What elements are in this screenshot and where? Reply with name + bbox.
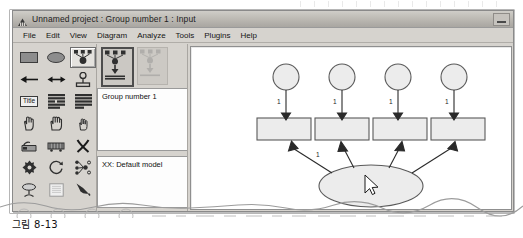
- loading-path-1: [291, 147, 332, 173]
- deselect-all-objects-icon[interactable]: [70, 113, 96, 134]
- duplicate-object-icon[interactable]: [16, 135, 42, 156]
- select-one-object-icon[interactable]: [16, 113, 42, 134]
- menu-bar: File Edit View Diagram Analyze Tools Plu…: [13, 28, 513, 43]
- menu-item-file[interactable]: File: [18, 31, 41, 40]
- menu-item-edit[interactable]: Edit: [41, 31, 65, 40]
- path-diagram-canvas[interactable]: 1 1 1 1 1: [190, 46, 512, 210]
- rotate-indicators-icon[interactable]: [43, 157, 69, 178]
- menu-item-tools[interactable]: Tools: [171, 31, 200, 40]
- amos-icon: [17, 14, 28, 25]
- model-thumbnail-strip: [97, 44, 187, 86]
- page-edge-decoration: [0, 196, 523, 218]
- menu-item-analyze[interactable]: Analyze: [132, 31, 170, 40]
- menu-item-help[interactable]: Help: [236, 31, 262, 40]
- figure-caption-icon[interactable]: Title: [16, 91, 42, 112]
- list-variables-in-model-icon[interactable]: [70, 91, 96, 112]
- window-body: Title: [13, 44, 513, 211]
- list-variables-in-dataset-icon[interactable]: [43, 91, 69, 112]
- group-label: Group number 1: [98, 89, 187, 101]
- draw-unobserved-variable-icon[interactable]: [43, 47, 69, 68]
- menu-item-view[interactable]: View: [65, 31, 92, 40]
- indicator-rect-3: [373, 118, 427, 140]
- draw-observed-variable-icon[interactable]: [16, 47, 42, 68]
- diagram-canvas-container: 1 1 1 1 1: [188, 44, 513, 211]
- draw-latent-with-indicators-icon[interactable]: [70, 47, 96, 68]
- amos-application-window: Unnamed project : Group number 1 : Input…: [12, 10, 514, 212]
- figure-caption: 그림 8-13: [12, 216, 58, 231]
- indicator-rect-1: [257, 118, 311, 140]
- change-shape-icon[interactable]: [16, 157, 42, 178]
- tool-palette: Title: [13, 44, 97, 211]
- error-circle-1: [273, 64, 299, 90]
- error-path-label-2: 1: [333, 98, 337, 105]
- erase-object-icon[interactable]: [70, 135, 96, 156]
- model-label: XX: Default model: [98, 157, 187, 169]
- menu-item-diagram[interactable]: Diagram: [92, 31, 132, 40]
- screenshot-root: Unnamed project : Group number 1 : Input…: [0, 0, 523, 238]
- model-thumbnail-output[interactable]: [137, 47, 168, 85]
- loading-path-label-1: 1: [316, 151, 320, 158]
- pane-divider: [97, 151, 187, 154]
- minimize-button[interactable]: [493, 13, 510, 26]
- indicator-rect-4: [431, 118, 485, 140]
- reflect-indicators-icon[interactable]: [70, 157, 96, 178]
- model-thumbnail-input[interactable]: [101, 47, 134, 87]
- figure-caption-label: Title: [20, 96, 38, 107]
- window-title: Unnamed project : Group number 1 : Input: [32, 14, 196, 24]
- scan-artifact: [300, 1, 510, 7]
- error-path-label-4: 1: [445, 98, 449, 105]
- menu-item-plugins[interactable]: Plugins: [199, 31, 235, 40]
- error-circle-4: [441, 64, 467, 90]
- error-path-label-1: 1: [277, 98, 281, 105]
- error-circle-3: [385, 64, 411, 90]
- window-controls: [493, 13, 510, 26]
- loading-path-4: [412, 147, 453, 173]
- move-object-icon[interactable]: [43, 135, 69, 156]
- add-unique-variable-icon[interactable]: [70, 69, 96, 90]
- error-circle-2: [329, 64, 355, 90]
- title-bar: Unnamed project : Group number 1 : Input: [13, 11, 513, 28]
- indicator-rect-2: [315, 118, 369, 140]
- select-all-objects-icon[interactable]: [43, 113, 69, 134]
- draw-path-arrow-icon[interactable]: [16, 69, 42, 90]
- error-path-label-3: 1: [389, 98, 393, 105]
- model-browser-panel: Group number 1 XX: Default model: [97, 44, 188, 211]
- draw-covariance-arrow-icon[interactable]: [43, 69, 69, 90]
- group-list-pane[interactable]: Group number 1: [97, 88, 187, 151]
